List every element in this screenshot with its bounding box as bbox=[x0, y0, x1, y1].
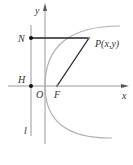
point-h-dot bbox=[29, 84, 33, 88]
y-axis-label: y bbox=[34, 5, 40, 16]
segment-pf bbox=[57, 38, 89, 86]
point-h-label: H bbox=[17, 74, 26, 85]
focus-label: F bbox=[53, 89, 61, 100]
point-p-dot bbox=[88, 37, 90, 39]
x-axis-label: x bbox=[121, 90, 127, 101]
point-p-label: P(x,y) bbox=[94, 38, 120, 50]
diagram-canvas: y x O F P(x,y) N H l bbox=[0, 0, 133, 165]
origin-label: O bbox=[36, 89, 43, 100]
y-axis-arrow-icon bbox=[43, 3, 47, 11]
x-axis-arrow-icon bbox=[121, 84, 129, 88]
directrix-label: l bbox=[24, 125, 27, 136]
parabola-diagram: y x O F P(x,y) N H l bbox=[0, 0, 133, 165]
point-n-dot bbox=[29, 36, 33, 40]
point-f-dot bbox=[56, 85, 58, 87]
point-n-label: N bbox=[17, 33, 26, 44]
